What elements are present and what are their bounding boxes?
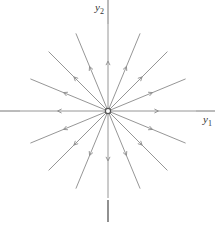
y2-label-sub: 2 bbox=[100, 7, 104, 16]
origin-equilibrium-point bbox=[105, 108, 110, 113]
y1-label-sub: 1 bbox=[208, 119, 212, 128]
trajectory-ray bbox=[49, 111, 108, 170]
y2-axis-label: y2 bbox=[95, 1, 104, 16]
trajectory-ray bbox=[49, 52, 108, 111]
trajectory-ray bbox=[108, 111, 167, 170]
phase-portrait-plot bbox=[0, 0, 215, 226]
phase-portrait: y2 y1 bbox=[0, 0, 215, 226]
trajectory-ray bbox=[108, 52, 167, 111]
y1-axis-label: y1 bbox=[203, 113, 212, 128]
